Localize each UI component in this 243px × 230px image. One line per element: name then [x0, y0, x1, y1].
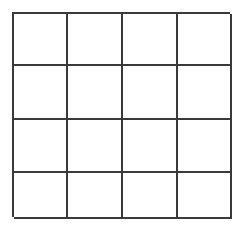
grid-figure: [12, 12, 230, 217]
grid-cell-r3c1[interactable]: [14, 120, 68, 173]
grid-cell-r4c3[interactable]: [123, 173, 178, 219]
grid-cell-r3c4[interactable]: [178, 120, 232, 173]
grid-cell-r4c4[interactable]: [178, 173, 232, 219]
grid-cell-r4c1[interactable]: [14, 173, 68, 219]
grid-cell-r4c2[interactable]: [68, 173, 123, 219]
grid-cell-r3c2[interactable]: [68, 120, 123, 173]
grid-cell-r2c3[interactable]: [123, 66, 178, 120]
grid-cell-r2c2[interactable]: [68, 66, 123, 120]
grid-cell-r1c3[interactable]: [123, 14, 178, 66]
canvas: [0, 0, 243, 230]
grid-cell-r1c4[interactable]: [178, 14, 232, 66]
grid-cell-r3c3[interactable]: [123, 120, 178, 173]
grid-cell-r2c1[interactable]: [14, 66, 68, 120]
grid-cell-r2c4[interactable]: [178, 66, 232, 120]
grid-cell-r1c1[interactable]: [14, 14, 68, 66]
grid-cell-r1c2[interactable]: [68, 14, 123, 66]
